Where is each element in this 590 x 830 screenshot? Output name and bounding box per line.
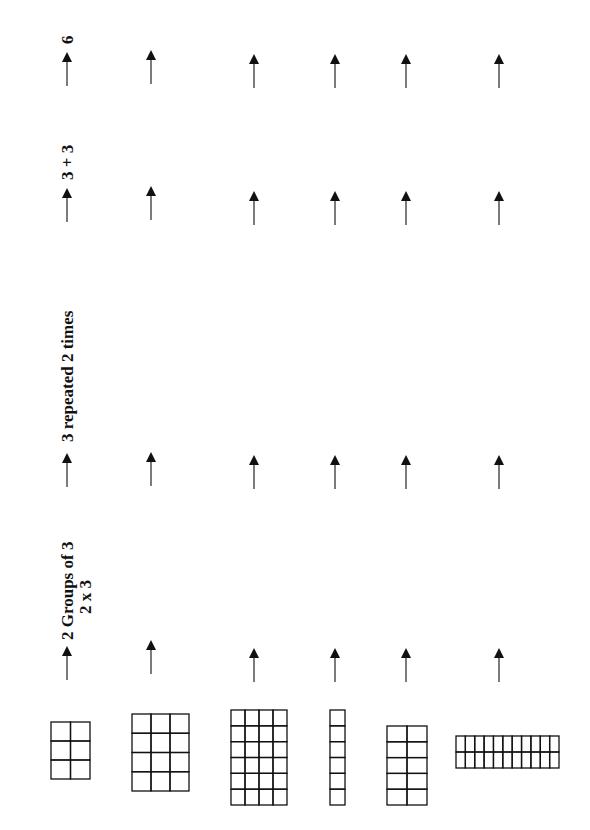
array-cell [132, 753, 151, 772]
array-cell [484, 752, 493, 768]
array-cell [387, 773, 407, 789]
array-cell [170, 733, 189, 752]
array-cell [522, 736, 531, 752]
array-cell [407, 726, 427, 742]
array-cell [151, 733, 170, 752]
array-cell [273, 773, 287, 789]
up-arrow-icon [62, 52, 72, 86]
array-cell [170, 753, 189, 772]
header-repeated: 3 repeated 2 times [58, 310, 77, 442]
up-arrow-icon [62, 453, 72, 487]
multiplication-diagram: 2 Groups of 3 2 x 3 3 repeated 2 times 3… [0, 0, 590, 830]
array-cell [531, 752, 540, 768]
array-cell [503, 736, 512, 752]
up-arrow-icon [146, 50, 156, 84]
array-2x5 [387, 726, 427, 805]
array-cell [330, 726, 345, 742]
array-cell [512, 736, 521, 752]
array-cell [245, 726, 259, 742]
array-cell [330, 789, 345, 805]
array-4x6 [231, 710, 287, 805]
array-cell [245, 742, 259, 758]
up-arrow-icon [330, 455, 340, 489]
header-groups-line2: 2 x 3 [76, 580, 95, 614]
array-cell [51, 760, 71, 779]
array-cell [273, 758, 287, 774]
array-cell [259, 726, 273, 742]
up-arrow-icon [249, 54, 259, 88]
array-cell [231, 710, 245, 726]
up-arrow-icon [330, 648, 340, 682]
array-cell [71, 760, 91, 779]
array-cell [259, 742, 273, 758]
array-cell [330, 710, 345, 726]
array-cell [387, 789, 407, 805]
up-arrow-icon [401, 648, 411, 682]
array-2x3 [51, 722, 90, 779]
array-cell [273, 726, 287, 742]
up-arrow-icon [494, 54, 504, 88]
array-cell [51, 722, 71, 741]
up-arrow-icon [62, 188, 72, 222]
array-cell [330, 773, 345, 789]
array-cell [170, 772, 189, 791]
array-cell [259, 773, 273, 789]
array-11x2 [456, 736, 559, 768]
array-cell [273, 710, 287, 726]
up-arrow-icon [146, 640, 156, 674]
array-cell [456, 736, 465, 752]
array-cell [71, 722, 91, 741]
up-arrow-icon [330, 54, 340, 88]
array-cell [51, 741, 71, 760]
array-1x6 [330, 710, 345, 805]
up-arrow-icon [401, 54, 411, 88]
up-arrow-icon [62, 646, 72, 680]
array-cell [273, 742, 287, 758]
up-arrow-icon [249, 191, 259, 225]
array-cell [273, 789, 287, 805]
array-cell [522, 752, 531, 768]
array-cell [456, 752, 465, 768]
array-cell [475, 736, 484, 752]
header-addition: 3 + 3 [58, 145, 77, 180]
array-cell [245, 710, 259, 726]
array-cell [231, 758, 245, 774]
array-cell [407, 789, 427, 805]
array-cell [330, 742, 345, 758]
array-cell [407, 773, 427, 789]
arrows [62, 50, 504, 682]
column-headers: 2 Groups of 3 2 x 3 3 repeated 2 times 3… [58, 36, 95, 641]
up-arrow-icon [494, 191, 504, 225]
array-cell [71, 741, 91, 760]
up-arrow-icon [249, 648, 259, 682]
array-cell [465, 752, 474, 768]
array-cell [540, 752, 549, 768]
array-cell [231, 726, 245, 742]
array-cell [231, 742, 245, 758]
array-cell [387, 742, 407, 758]
up-arrow-icon [249, 455, 259, 489]
array-cell [387, 758, 407, 774]
array-cell [493, 752, 502, 768]
array-cell [245, 789, 259, 805]
array-cell [259, 758, 273, 774]
array-cell [493, 736, 502, 752]
arrays [51, 710, 559, 805]
array-cell [231, 773, 245, 789]
array-cell [387, 726, 407, 742]
array-cell [550, 736, 559, 752]
header-product: 6 [58, 36, 77, 45]
array-cell [330, 758, 345, 774]
array-cell [132, 733, 151, 752]
array-cell [531, 736, 540, 752]
array-cell [540, 736, 549, 752]
array-cell [503, 752, 512, 768]
up-arrow-icon [401, 455, 411, 489]
array-cell [245, 773, 259, 789]
header-groups-line1: 2 Groups of 3 [58, 542, 77, 640]
array-cell [245, 758, 259, 774]
array-cell [132, 714, 151, 733]
up-arrow-icon [330, 191, 340, 225]
up-arrow-icon [146, 186, 156, 220]
up-arrow-icon [494, 648, 504, 682]
